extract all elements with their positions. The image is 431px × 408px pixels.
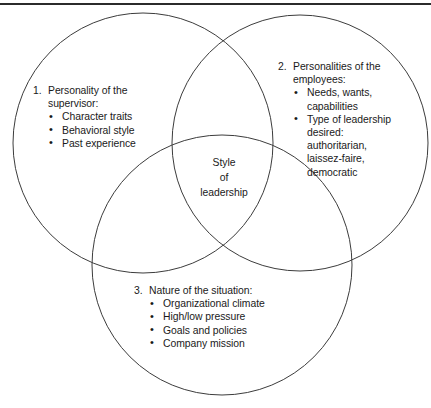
- group-employees: 2. Personalities of the employees: • Nee…: [278, 60, 426, 179]
- list-item: • Behavioral style: [48, 124, 183, 137]
- list-item-label-line: laissez-faire,: [307, 153, 365, 164]
- venn-diagram-page: 1. Personality of the supervisor: • Char…: [0, 0, 431, 408]
- center-label-line-1: Style: [178, 155, 270, 170]
- list-item: • Company mission: [149, 337, 314, 350]
- group-supervisor: 1. Personality of the supervisor: • Char…: [33, 84, 183, 150]
- list-item-label-line: Type of leadership: [307, 114, 391, 125]
- bullet-icon: •: [150, 336, 154, 349]
- list-item-label: Past experience: [62, 138, 136, 149]
- group-employees-bullet-list: • Needs, wants, capabilities • Type of l…: [278, 86, 426, 178]
- bullet-icon: •: [150, 297, 154, 310]
- bullet-icon: •: [150, 323, 154, 336]
- group-supervisor-bullet-list: • Character traits • Behavioral style • …: [33, 110, 183, 150]
- list-item-label-line: democratic: [307, 167, 357, 178]
- list-item-label: Organizational climate: [163, 298, 265, 309]
- list-item-label-line: Needs, wants,: [307, 87, 372, 98]
- group-employees-heading-line-2: employees:: [293, 73, 426, 86]
- center-label-line-2: of: [178, 170, 270, 185]
- bullet-icon: •: [49, 136, 53, 149]
- list-item: • Needs, wants, capabilities: [293, 86, 426, 112]
- group-situation-heading: 3. Nature of the situation:: [134, 284, 314, 297]
- bullet-icon: •: [150, 310, 154, 323]
- list-item: • Past experience: [48, 137, 183, 150]
- bullet-icon: •: [294, 112, 298, 125]
- list-item: • Goals and policies: [149, 324, 314, 337]
- group-situation-number: 3.: [134, 284, 146, 297]
- group-supervisor-heading-line-1: Personality of the: [48, 84, 183, 97]
- group-supervisor-number: 1.: [33, 84, 45, 97]
- list-item: • Organizational climate: [149, 297, 314, 310]
- group-employees-heading-line-1: Personalities of the: [293, 60, 426, 73]
- group-supervisor-heading: 1. Personality of the supervisor:: [33, 84, 183, 110]
- group-employees-heading: 2. Personalities of the employees:: [278, 60, 426, 86]
- bullet-icon: •: [49, 123, 53, 136]
- list-item: • High/low pressure: [149, 310, 314, 323]
- list-item-label-line: capabilities: [307, 101, 358, 112]
- center-intersection-label: Style of leadership: [178, 155, 270, 200]
- list-item-label-line: desired:: [307, 127, 344, 138]
- list-item-label: Behavioral style: [62, 125, 135, 136]
- list-item: • Type of leadership desired: authoritar…: [293, 113, 426, 179]
- list-item-label: Character traits: [62, 111, 132, 122]
- list-item-label: High/low pressure: [163, 311, 245, 322]
- group-situation: 3. Nature of the situation: • Organizati…: [134, 284, 314, 350]
- list-item: • Character traits: [48, 110, 183, 123]
- bullet-icon: •: [49, 110, 53, 123]
- group-situation-heading-line-1: Nature of the situation:: [149, 284, 314, 297]
- center-label-line-3: leadership: [178, 185, 270, 200]
- list-item-label: Goals and policies: [163, 325, 247, 336]
- group-supervisor-heading-line-2: supervisor:: [48, 97, 183, 110]
- list-item-label-line: authoritarian,: [307, 140, 367, 151]
- group-employees-number: 2.: [278, 60, 290, 73]
- bullet-icon: •: [294, 86, 298, 99]
- list-item-label: Company mission: [163, 338, 245, 349]
- group-situation-bullet-list: • Organizational climate • High/low pres…: [134, 297, 314, 350]
